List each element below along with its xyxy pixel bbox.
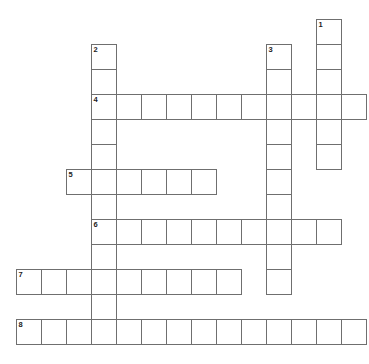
crossword-cell[interactable]	[316, 94, 342, 120]
crossword-cell[interactable]	[266, 94, 292, 120]
clue-number-7: 7	[19, 270, 23, 279]
crossword-cell[interactable]	[266, 119, 292, 145]
crossword-cell[interactable]	[316, 219, 342, 245]
crossword-cell[interactable]	[291, 94, 317, 120]
clue-number-6: 6	[94, 220, 98, 229]
crossword-cell[interactable]	[266, 244, 292, 270]
clue-number-3: 3	[269, 45, 273, 54]
crossword-cell[interactable]	[116, 94, 142, 120]
crossword-cell[interactable]	[141, 219, 167, 245]
crossword-cell[interactable]	[116, 269, 142, 295]
crossword-cell[interactable]	[166, 219, 192, 245]
crossword-cell[interactable]	[166, 169, 192, 195]
crossword-cell[interactable]	[216, 219, 242, 245]
crossword-cell[interactable]	[91, 119, 117, 145]
crossword-cell[interactable]	[316, 144, 342, 170]
crossword-cell[interactable]	[266, 144, 292, 170]
crossword-cell[interactable]	[141, 94, 167, 120]
crossword-cell[interactable]	[216, 269, 242, 295]
crossword-cell-start-7[interactable]: 7	[16, 269, 42, 295]
crossword-cell[interactable]	[266, 269, 292, 295]
crossword-cell-start-6[interactable]: 6	[91, 219, 117, 245]
crossword-cell[interactable]	[316, 44, 342, 70]
crossword-cell[interactable]	[166, 319, 192, 345]
crossword-cell[interactable]	[91, 269, 117, 295]
crossword-cell-start-1[interactable]: 1	[316, 19, 342, 45]
crossword-cell[interactable]	[141, 169, 167, 195]
crossword-cell[interactable]	[291, 219, 317, 245]
crossword-cell[interactable]	[91, 244, 117, 270]
clue-number-5: 5	[69, 170, 73, 179]
crossword-cell[interactable]	[316, 119, 342, 145]
crossword-cell[interactable]	[91, 169, 117, 195]
crossword-cell[interactable]	[216, 319, 242, 345]
crossword-cell[interactable]	[91, 319, 117, 345]
crossword-cell[interactable]	[91, 194, 117, 220]
crossword-cell[interactable]	[266, 319, 292, 345]
crossword-cell[interactable]	[116, 169, 142, 195]
clue-number-2: 2	[94, 45, 98, 54]
crossword-cell-start-5[interactable]: 5	[66, 169, 92, 195]
crossword-cell[interactable]	[266, 69, 292, 95]
crossword-cell[interactable]	[291, 319, 317, 345]
crossword-cell[interactable]	[316, 319, 342, 345]
crossword-cell[interactable]	[41, 319, 67, 345]
crossword-cell[interactable]	[116, 319, 142, 345]
crossword-cell[interactable]	[116, 219, 142, 245]
crossword-cell[interactable]	[241, 94, 267, 120]
clue-number-8: 8	[19, 320, 23, 329]
crossword-cell[interactable]	[266, 194, 292, 220]
clue-number-4: 4	[94, 95, 98, 104]
crossword-cell[interactable]	[166, 94, 192, 120]
crossword-cell[interactable]	[66, 319, 92, 345]
crossword-cell[interactable]	[241, 319, 267, 345]
crossword-cell[interactable]	[266, 169, 292, 195]
crossword-cell-start-8[interactable]: 8	[16, 319, 42, 345]
crossword-cell[interactable]	[341, 319, 367, 345]
crossword-cell[interactable]	[41, 269, 67, 295]
crossword-cell[interactable]	[341, 94, 367, 120]
crossword-cell[interactable]	[191, 269, 217, 295]
clue-number-1: 1	[319, 20, 323, 29]
crossword-cell-start-4[interactable]: 4	[91, 94, 117, 120]
crossword-cell[interactable]	[141, 319, 167, 345]
crossword-cell[interactable]	[191, 319, 217, 345]
crossword-grid[interactable]: 12345678	[0, 0, 369, 364]
crossword-cell[interactable]	[191, 219, 217, 245]
crossword-cell[interactable]	[166, 269, 192, 295]
crossword-cell[interactable]	[91, 144, 117, 170]
crossword-cell[interactable]	[91, 294, 117, 320]
crossword-cell[interactable]	[266, 219, 292, 245]
crossword-cell[interactable]	[191, 169, 217, 195]
crossword-cell[interactable]	[216, 94, 242, 120]
crossword-cell-start-2[interactable]: 2	[91, 44, 117, 70]
crossword-cell[interactable]	[66, 269, 92, 295]
crossword-cell[interactable]	[316, 69, 342, 95]
crossword-cell[interactable]	[141, 269, 167, 295]
crossword-cell-start-3[interactable]: 3	[266, 44, 292, 70]
crossword-puzzle: 12345678	[0, 0, 369, 364]
crossword-cell[interactable]	[241, 219, 267, 245]
crossword-cell[interactable]	[191, 94, 217, 120]
crossword-cell[interactable]	[91, 69, 117, 95]
